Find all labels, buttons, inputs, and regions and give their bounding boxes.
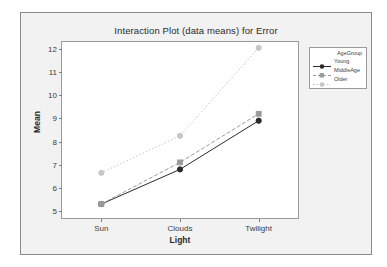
legend-label: MiddleAge <box>332 66 360 75</box>
x-tick-mark <box>180 219 181 222</box>
y-tick-mark <box>59 49 62 50</box>
y-tick-label: 11 <box>49 68 57 77</box>
y-tick-label: 5 <box>53 207 57 216</box>
x-axis-ticks: SunCloudsTwilight <box>61 219 299 235</box>
y-tick-mark <box>59 188 62 189</box>
y-tick-mark <box>59 142 62 143</box>
series-line-older <box>101 48 258 173</box>
y-tick-mark <box>59 118 62 119</box>
data-point <box>178 160 183 165</box>
y-tick-mark <box>59 165 62 166</box>
x-tick-label: Twilight <box>245 224 272 233</box>
data-point <box>99 170 104 175</box>
legend-key-icon <box>312 66 332 75</box>
legend-item-older[interactable]: Older <box>312 75 364 84</box>
data-point <box>177 133 182 138</box>
x-tick-label: Clouds <box>168 224 193 233</box>
y-tick-mark <box>59 211 62 212</box>
y-tick-mark <box>59 95 62 96</box>
legend-key-icon <box>312 57 332 66</box>
data-point <box>256 45 261 50</box>
plot-svg <box>62 42 298 218</box>
series-line-middleage <box>101 114 258 204</box>
legend-label: Older <box>332 75 347 84</box>
y-tick-label: 8 <box>53 137 57 146</box>
x-tick-mark <box>101 219 102 222</box>
graph-window: Interaction Plot (data means) for Error … <box>20 12 372 255</box>
y-tick-label: 9 <box>53 114 57 123</box>
chart-title: Interaction Plot (data means) for Error <box>21 25 371 36</box>
data-point <box>99 202 104 207</box>
x-tick-mark <box>259 219 260 222</box>
legend-item-young[interactable]: Young <box>312 57 364 66</box>
y-tick-label: 12 <box>48 44 57 53</box>
legend-entries: YoungMiddleAgeOlder <box>312 57 364 84</box>
x-tick-label: Sun <box>94 224 108 233</box>
y-tick-label: 10 <box>48 91 57 100</box>
y-tick-mark <box>59 72 62 73</box>
y-axis-title: Mean <box>32 102 42 142</box>
legend-title: AgeGroup <box>312 50 364 57</box>
plot-area <box>61 41 299 219</box>
screenshot-root: Interaction Plot (data means) for Error … <box>0 0 387 267</box>
data-point <box>256 118 261 123</box>
data-point <box>256 111 261 116</box>
legend-label: Young <box>332 57 349 66</box>
x-axis-title: Light <box>61 235 299 245</box>
legend-key-icon <box>312 75 332 84</box>
y-tick-label: 7 <box>53 160 57 169</box>
legend-item-middleage[interactable]: MiddleAge <box>312 66 364 75</box>
legend: AgeGroup YoungMiddleAgeOlder <box>309 47 367 89</box>
y-tick-label: 6 <box>53 183 57 192</box>
data-point <box>177 167 182 172</box>
